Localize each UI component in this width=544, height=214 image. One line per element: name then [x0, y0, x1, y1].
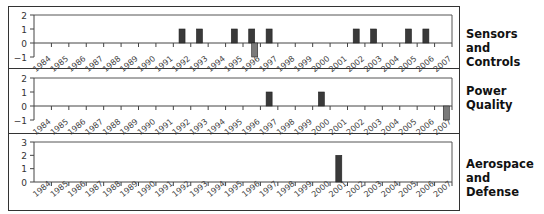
bar: [196, 29, 202, 43]
y-tick-label: 1: [21, 25, 27, 35]
x-tick-label: 2004: [380, 117, 401, 137]
x-tick-label: 2002: [345, 54, 366, 74]
y-tick-label: 3: [21, 138, 27, 148]
x-tick-label: 1991: [153, 54, 174, 74]
x-tick-label: 2004: [380, 54, 401, 74]
x-tick-label: 2000: [310, 117, 331, 137]
x-tick-label: 1988: [101, 54, 122, 74]
panel-label-sensors-and-controls: Sensors and Controls: [466, 27, 544, 69]
panel-label-line1: Aerospace: [466, 157, 544, 171]
y-tick-label: 2: [21, 151, 27, 161]
x-tick-label: 1989: [118, 117, 139, 137]
x-tick-label: 2005: [397, 54, 418, 74]
x-tick-label: 1985: [49, 117, 70, 137]
panel-label-aerospace-and-defense: Aerospace and Defense: [466, 157, 544, 199]
x-tick-label: 1988: [101, 117, 122, 137]
x-tick-label: 1996: [240, 54, 261, 74]
x-tick-label: 1984: [31, 117, 52, 137]
x-tick-label: 1997: [258, 54, 279, 74]
bar: [266, 29, 272, 43]
x-tick-label: 1995: [223, 117, 244, 137]
y-tick-label: 0: [21, 178, 27, 188]
x-tick-label: 1984: [31, 54, 52, 74]
x-tick-label: 1990: [136, 117, 157, 137]
bar: [266, 92, 272, 106]
x-tick-label: 2007: [432, 117, 453, 137]
x-tick-label: 2007: [432, 54, 453, 74]
y-tick-label: 2: [21, 74, 27, 84]
x-tick-label: 1993: [188, 117, 209, 137]
bar: [443, 106, 449, 120]
panel-label-line1: Power Quality: [466, 84, 544, 112]
bar: [249, 29, 255, 43]
x-tick-label: 1986: [66, 54, 87, 74]
y-tick-label: −1: [14, 116, 27, 126]
y-tick-label: 0: [21, 102, 27, 112]
panel-label-line2: and Defense: [466, 171, 544, 199]
x-tick-label: 2001: [327, 117, 348, 137]
y-tick-label: −1: [14, 53, 27, 63]
x-tick-label: 1991: [153, 117, 174, 137]
x-tick-label: 2006: [414, 117, 435, 137]
x-tick-label: 1995: [223, 54, 244, 74]
x-tick-label: 1990: [136, 54, 157, 74]
x-tick-label: 1998: [275, 117, 296, 137]
x-tick-label: 1992: [171, 54, 192, 74]
x-tick-label: 1998: [275, 54, 296, 74]
x-tick-label: 2003: [362, 54, 383, 74]
x-tick-label: 2001: [327, 54, 348, 74]
y-tick-label: 1: [21, 164, 27, 174]
x-tick-label: 1994: [205, 54, 226, 74]
x-tick-label: 1992: [171, 117, 192, 137]
x-tick-label: 2002: [345, 117, 366, 137]
x-tick-label: 1989: [118, 54, 139, 74]
bar: [336, 155, 342, 182]
x-tick-label: 2005: [397, 117, 418, 137]
x-tick-label: 2000: [310, 54, 331, 74]
y-tick-label: 0: [21, 39, 27, 49]
bar: [353, 29, 359, 43]
bar: [405, 29, 411, 43]
panel-label-power-quality: Power Quality: [466, 84, 544, 112]
y-tick-label: 2: [21, 11, 27, 21]
x-tick-label: 1986: [66, 117, 87, 137]
bar: [179, 29, 185, 43]
bar: [252, 43, 258, 57]
bar: [231, 29, 237, 43]
x-tick-label: 2006: [414, 54, 435, 74]
x-tick-label: 1999: [293, 54, 314, 74]
x-tick-label: 1994: [205, 117, 226, 137]
x-tick-label: 1999: [293, 117, 314, 137]
bar: [423, 29, 429, 43]
x-tick-label: 1987: [84, 117, 105, 137]
y-tick-label: 1: [21, 88, 27, 98]
x-tick-label: 2003: [362, 117, 383, 137]
x-tick-label: 1985: [49, 54, 70, 74]
x-tick-label: 1997: [258, 117, 279, 137]
x-tick-label: 1996: [240, 117, 261, 137]
x-tick-label: 1993: [188, 54, 209, 74]
bar: [318, 92, 324, 106]
bar: [371, 29, 377, 43]
x-tick-label: 1987: [84, 54, 105, 74]
panel-label-line2: Controls: [466, 55, 544, 69]
panel-label-line1: Sensors and: [466, 27, 544, 55]
chart-canvas: −101219841985198619871988198919901991199…: [0, 0, 544, 214]
